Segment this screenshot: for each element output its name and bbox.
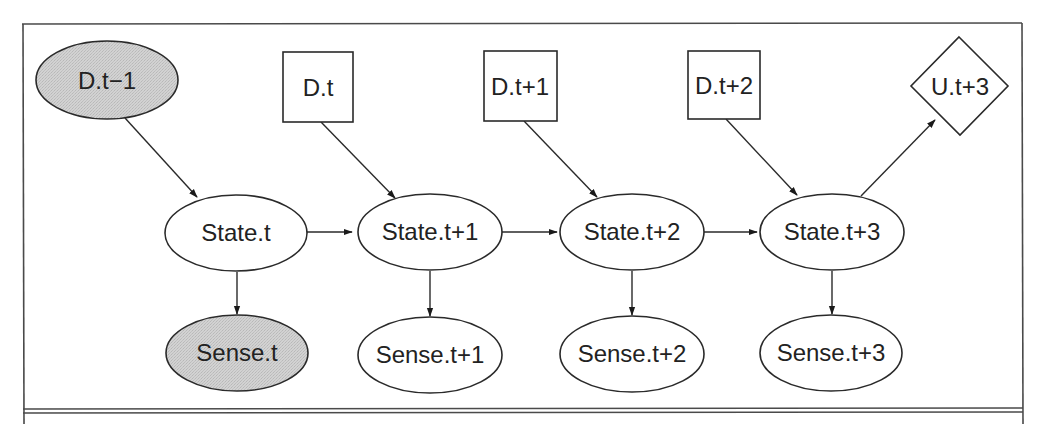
node-label: D.t [303,74,334,101]
node-label: D.t−1 [78,67,136,94]
node-label: Sense.t+3 [777,339,886,366]
node-label: Sense.t+1 [376,341,485,368]
node-label: State.t+3 [784,218,881,245]
node-state-t: State.t [165,195,307,271]
node-state-t-plus-2: State.t+2 [560,194,704,270]
node-label: D.t+2 [695,72,753,99]
node-u-t-plus-3: U.t+3 [911,37,1008,135]
edge-dtm1-state-t [125,118,197,197]
node-label: U.t+3 [931,73,989,100]
node-label: State.t [201,219,271,246]
node-label: Sense.t+2 [578,340,687,367]
node-d-t: D.t [283,52,353,122]
edge-dt1-state-t2 [524,121,597,197]
node-state-t-plus-3: State.t+3 [760,194,904,270]
decision-network-diagram: D.t−1 D.t D.t+1 D.t+2 U.t+3 State.t Stat… [0,0,1048,424]
node-label: D.t+1 [491,73,549,100]
edge-state-t3-ut3 [861,120,935,196]
node-d-t-minus-1: D.t−1 [36,41,178,119]
node-label: Sense.t [196,339,278,366]
node-sense-t-plus-2: Sense.t+2 [560,316,704,392]
node-sense-t: Sense.t [166,315,308,391]
node-sense-t-plus-1: Sense.t+1 [358,317,502,393]
node-state-t-plus-1: State.t+1 [358,194,502,270]
node-sense-t-plus-3: Sense.t+3 [760,315,902,391]
edge-dt-state-t1 [321,122,395,198]
node-d-t-plus-1: D.t+1 [484,51,557,121]
node-d-t-plus-2: D.t+2 [688,51,760,119]
node-label: State.t+1 [382,218,479,245]
edge-dt2-state-t3 [726,119,797,195]
node-label: State.t+2 [584,218,681,245]
